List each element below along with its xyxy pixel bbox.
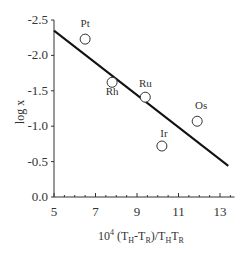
point-label-ru: Ru (139, 77, 152, 89)
point-label-rh: Rh (106, 85, 119, 97)
x-tick-label: 9 (134, 204, 141, 219)
axes: -2.5-2.0-1.5-1.0-0.50.05791113 (27, 12, 234, 219)
data-points: PtRhRuIrOs (80, 17, 207, 151)
x-tick-label: 13 (214, 204, 227, 219)
point-label-os: Os (195, 99, 207, 111)
y-tick-label: -2.0 (27, 47, 48, 62)
y-tick-label: 0.0 (32, 189, 48, 204)
scatter-chart: -2.5-2.0-1.5-1.0-0.50.05791113 PtRhRuIrO… (0, 0, 251, 254)
y-tick-label: -1.5 (27, 83, 48, 98)
y-axis-title: log x (13, 100, 27, 124)
x-tick-label: 5 (51, 204, 58, 219)
x-tick-label: 11 (172, 204, 185, 219)
point-label-ir: Ir (160, 127, 168, 139)
y-tick-label: -0.5 (27, 154, 48, 169)
x-tick-label: 7 (92, 204, 99, 219)
data-point-ru (140, 92, 150, 102)
point-label-pt: Pt (81, 17, 90, 29)
data-point-ir (157, 141, 167, 151)
data-point-pt (80, 34, 90, 44)
y-tick-label: -1.0 (27, 118, 48, 133)
data-point-os (192, 116, 202, 126)
y-tick-label: -2.5 (27, 12, 48, 27)
x-axis-title: 104 (TH-TR)/THTR (98, 228, 185, 245)
